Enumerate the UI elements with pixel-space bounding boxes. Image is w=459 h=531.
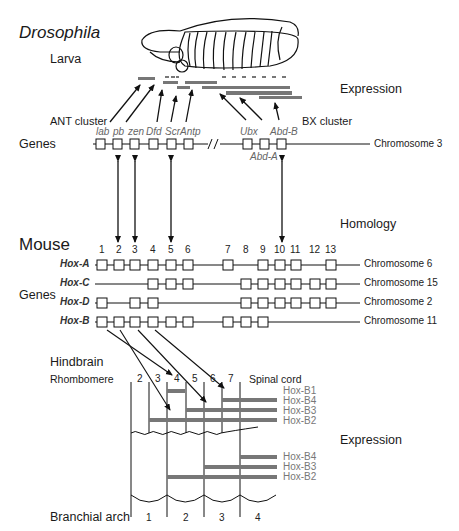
rhombomere-6: 6 — [210, 374, 216, 384]
paralog-number-13: 13 — [325, 245, 336, 255]
gene-box-hox-b-2 — [114, 317, 124, 327]
paralog-number-5: 5 — [168, 245, 174, 255]
gene-scr: Scr — [165, 127, 180, 137]
paralog-number-2: 2 — [116, 245, 122, 255]
drosophila-expression-label: Expression — [340, 83, 402, 96]
gene-box-hox-b-1 — [97, 317, 107, 327]
gene-box-hox-a-5 — [166, 260, 176, 270]
arch-3: 3 — [219, 513, 225, 523]
paralog-number-10: 10 — [274, 245, 285, 255]
gene-box-hox-a-10 — [275, 260, 285, 270]
spinal-cord-label: Spinal cord — [249, 374, 302, 385]
mouse-genes-label: Genes — [19, 289, 56, 302]
drosophila-genes-label: Genes — [19, 138, 56, 151]
gene-box-hox-d-13 — [326, 298, 336, 308]
cluster-name-hox-d: Hox-D — [60, 297, 89, 307]
larva-illustration — [142, 19, 299, 72]
rhombomere-5: 5 — [192, 374, 198, 384]
gene-lab: lab — [96, 127, 109, 137]
gene-zen: zen — [128, 127, 144, 137]
gene-box-hox-a-1 — [97, 260, 107, 270]
gene-box-hox-d-4 — [148, 298, 158, 308]
gene-abd-a: Abd-A — [250, 152, 278, 162]
mouse-gene-boxes — [97, 260, 336, 327]
hindbrain-expression-bars — [149, 389, 277, 422]
rhombomere-3: 3 — [155, 374, 161, 384]
gene-box-hox-c-13 — [326, 279, 336, 289]
cluster-chromosome-hox-a: Chromosome 6 — [364, 259, 432, 269]
gene-dfd: Dfd — [146, 127, 162, 137]
mouse-clusters — [95, 265, 360, 322]
rhombomere-2: 2 — [137, 374, 143, 384]
gene-box-hox-a-11 — [291, 260, 301, 270]
gene-box-hox-d-12 — [310, 298, 320, 308]
gene-box-hox-d-3 — [130, 298, 140, 308]
paralog-number-6: 6 — [185, 245, 191, 255]
gene-box-hox-b-9 — [258, 317, 268, 327]
gene-box-hox-a-9 — [258, 260, 268, 270]
gene-box-hox-c-12 — [310, 279, 320, 289]
gene-box-hox-c-5 — [166, 279, 176, 289]
gene-box-hox-a-2 — [114, 260, 124, 270]
chromosome-3-label: Chromosome 3 — [374, 139, 442, 149]
gene-box-hox-d-1 — [97, 298, 107, 308]
hindbrain-row-hox-b2: Hox-B2 — [283, 416, 316, 426]
paralog-number-4: 4 — [150, 245, 156, 255]
gene-abd-b: Abd-B — [270, 127, 298, 137]
branchial-row-hox-b2: Hox-B2 — [283, 472, 316, 482]
gene-box-hox-d-9 — [258, 298, 268, 308]
paralog-number-7: 7 — [225, 245, 231, 255]
larva-label: Larva — [50, 53, 81, 66]
arch-2: 2 — [183, 513, 189, 523]
cluster-name-hox-c: Hox-C — [60, 278, 89, 288]
rhombomere-7: 7 — [228, 374, 234, 384]
gene-box-hox-c-6 — [183, 279, 193, 289]
hoxb-to-rhombomere-arrows — [107, 330, 224, 410]
hindbrain-grid — [131, 382, 276, 517]
gene-box-hox-b-8 — [241, 317, 251, 327]
gene-antp: Antp — [180, 127, 201, 137]
gene-box-hox-b-3 — [130, 317, 140, 327]
cluster-name-hox-a: Hox-A — [60, 259, 89, 269]
gene-box-hox-c-10 — [275, 279, 285, 289]
gene-box-hox-c-9 — [258, 279, 268, 289]
gene-box-hox-a-3 — [130, 260, 140, 270]
arch-1: 1 — [146, 513, 152, 523]
homology-arrows — [118, 161, 282, 242]
paralog-number-1: 1 — [99, 245, 105, 255]
bx-cluster-label: BX cluster — [302, 116, 352, 127]
gene-box-hox-d-11 — [291, 298, 301, 308]
homology-label: Homology — [340, 218, 396, 231]
cluster-chromosome-hox-c: Chromosome 15 — [364, 278, 438, 288]
gene-box-hox-b-5 — [166, 317, 176, 327]
cluster-chromosome-hox-b: Chromosome 11 — [364, 316, 437, 326]
rhombomere-4: 4 — [174, 374, 180, 384]
gene-box-hox-a-4 — [148, 260, 158, 270]
paralog-number-12: 12 — [309, 245, 320, 255]
gene-box-hox-d-8 — [241, 298, 251, 308]
hindbrain-title: Hindbrain — [50, 356, 104, 369]
gene-ubx: Ubx — [240, 127, 258, 137]
drosophila-expression-bars — [138, 76, 302, 99]
rhombomere-label: Rhombomere — [50, 374, 114, 385]
mouse-title: Mouse — [19, 236, 70, 253]
drosophila-title: Drosophila — [19, 24, 100, 41]
chromosome-3-track — [93, 139, 370, 149]
gene-box-hox-a-13 — [326, 260, 336, 270]
gene-box-hox-c-11 — [291, 279, 301, 289]
gene-pb: pb — [113, 127, 124, 137]
paralog-number-9: 9 — [260, 245, 266, 255]
cluster-name-hox-b: Hox-B — [60, 316, 89, 326]
cluster-chromosome-hox-d: Chromosome 2 — [364, 297, 432, 307]
gene-box-hox-b-4 — [148, 317, 158, 327]
paralog-number-8: 8 — [243, 245, 249, 255]
drosophila-gene-arrows — [110, 85, 279, 122]
gene-box-hox-a-7 — [223, 260, 233, 270]
arch-4: 4 — [255, 513, 261, 523]
gene-box-hox-d-10 — [275, 298, 285, 308]
gene-box-hox-b-6 — [183, 317, 193, 327]
gene-box-hox-a-6 — [183, 260, 193, 270]
branchial-arch-label: Branchial arch — [50, 511, 130, 524]
gene-box-hox-c-4 — [148, 279, 158, 289]
paralog-number-11: 11 — [290, 245, 300, 255]
